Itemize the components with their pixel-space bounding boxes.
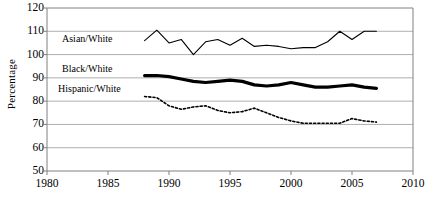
series-label-2: Black/White [62, 64, 113, 74]
series-line-3 [145, 96, 377, 123]
series-label-3: Hispanic/White [58, 84, 121, 94]
series-line-1 [145, 30, 377, 54]
series-label-1: Asian/White [62, 34, 113, 44]
